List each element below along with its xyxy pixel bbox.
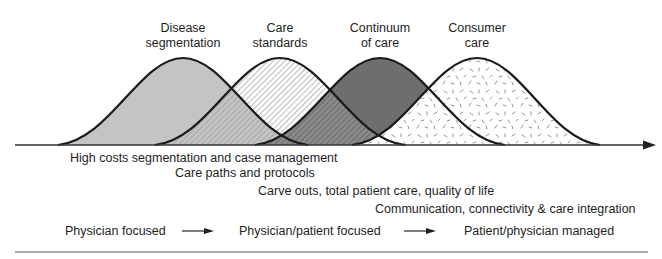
stage-physician-focused: Physician focused	[65, 224, 166, 238]
bell-curves-diagram	[0, 0, 662, 259]
label-line: segmentation	[145, 36, 220, 51]
label-line: Disease	[145, 21, 220, 36]
description-care-paths: Care paths and protocols	[175, 166, 315, 180]
label-line: Continuum	[350, 21, 410, 36]
description-communication: Communication, connectivity & care integ…	[375, 202, 636, 216]
right-arrow-icon	[182, 228, 214, 234]
label-line: standards	[253, 36, 308, 51]
stage-physician-patient-focused: Physician/patient focused	[239, 224, 381, 238]
label-consumer-care: Consumer care	[448, 21, 506, 51]
label-line: Care	[253, 21, 308, 36]
label-line: care	[448, 36, 506, 51]
description-carve-outs: Carve outs, total patient care, quality …	[258, 184, 494, 198]
description-high-costs: High costs segmentation and case managem…	[70, 151, 338, 165]
right-arrow-icon	[404, 228, 436, 234]
label-line: of care	[350, 36, 410, 51]
label-continuum-of-care: Continuum of care	[350, 21, 410, 51]
label-line: Consumer	[448, 21, 506, 36]
label-care-standards: Care standards	[253, 21, 308, 51]
label-disease-segmentation: Disease segmentation	[145, 21, 220, 51]
stage-patient-physician-managed: Patient/physician managed	[464, 224, 614, 238]
